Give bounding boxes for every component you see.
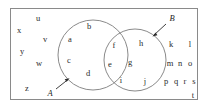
set-element-y: y	[20, 47, 24, 56]
set-b-circle	[104, 29, 166, 91]
set-b-label: B	[169, 14, 174, 23]
set-element-s: s	[192, 77, 195, 86]
set-element-v: v	[43, 35, 47, 44]
set-element-j: j	[144, 77, 146, 86]
set-element-x: x	[17, 26, 21, 35]
set-element-c: c	[67, 56, 71, 65]
set-element-b: b	[87, 22, 91, 31]
venn-diagram-canvas	[0, 0, 208, 108]
set-element-i: i	[120, 76, 122, 85]
set-element-m: m	[167, 59, 174, 68]
set-element-t: t	[192, 91, 194, 100]
set-element-o: o	[188, 59, 192, 68]
set-element-f: f	[113, 41, 116, 50]
set-element-e: e	[108, 60, 112, 69]
set-element-l: l	[189, 40, 191, 49]
set-element-p: p	[164, 77, 168, 86]
set-element-w: w	[36, 59, 42, 68]
set-element-u: u	[36, 14, 40, 23]
set-element-z: z	[25, 84, 29, 93]
set-a-label: A	[47, 89, 52, 98]
set-element-g: g	[128, 58, 132, 67]
set-element-r: r	[184, 77, 187, 86]
set-element-n: n	[178, 59, 182, 68]
set-b-arrow	[152, 24, 166, 36]
set-element-a: a	[68, 35, 72, 44]
set-element-h: h	[139, 39, 143, 48]
set-element-q: q	[174, 77, 178, 86]
set-element-k: k	[169, 40, 173, 49]
set-a-arrow	[56, 78, 70, 89]
venn-diagram: A B uxvywzbacdfehgijklmnopqrst	[0, 0, 208, 108]
set-element-d: d	[86, 69, 90, 78]
